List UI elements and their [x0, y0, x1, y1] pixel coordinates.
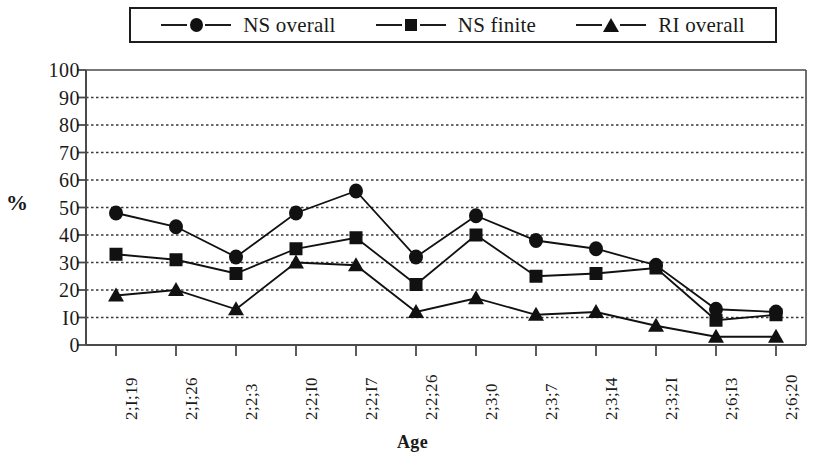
x-tick-label: 2;2;I7	[363, 377, 380, 420]
chart-figure: NS overall NS finite RI overall 10	[0, 0, 825, 461]
x-tick-label: 2;2;I0	[303, 377, 320, 420]
x-tick-label: 2;I;19	[123, 377, 140, 420]
x-tick-label: 2;I;26	[183, 377, 200, 420]
x-tick-label: 2;3;I4	[603, 377, 620, 420]
x-tick-label: 2;6;I3	[723, 377, 740, 420]
x-axis-tick-labels: 2;I;192;I;262;2;32;2;I02;2;I72;2;262;3;0…	[0, 0, 825, 461]
plot-area: 1009080706050403020I00 2;I;192;I;262;2;3…	[0, 0, 825, 461]
x-tick-label: 2;2;26	[423, 374, 440, 420]
x-tick-label: 2;6;20	[783, 374, 800, 420]
y-axis-title: %	[6, 192, 28, 214]
x-axis-title: Age	[0, 432, 825, 453]
x-tick-label: 2;3;2I	[663, 377, 680, 420]
x-tick-label: 2;3;7	[543, 383, 560, 420]
x-tick-label: 2;3;0	[483, 383, 500, 420]
x-tick-label: 2;2;3	[243, 383, 260, 420]
